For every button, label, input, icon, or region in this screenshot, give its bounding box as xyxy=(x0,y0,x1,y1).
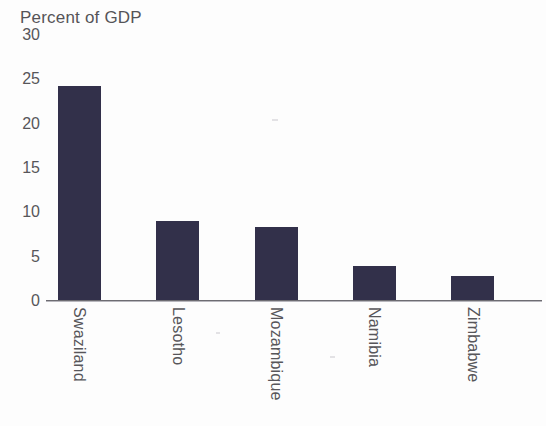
x-axis-tick-label: Zimbabwe xyxy=(464,307,482,382)
y-axis-tick-label: 15 xyxy=(22,159,40,177)
scan-artifact xyxy=(216,332,220,334)
x-axis-tick-label: Mozambique xyxy=(267,307,285,401)
x-axis-label-slot: Namibia xyxy=(353,301,396,426)
bar xyxy=(58,86,101,301)
x-axis-tick-label: Namibia xyxy=(365,307,383,367)
y-axis: 051015202530 xyxy=(0,35,44,301)
x-axis-tick-label: Lesotho xyxy=(169,307,187,365)
x-axis-label-slot: Mozambique xyxy=(255,301,298,426)
y-axis-tick-label: 30 xyxy=(22,26,40,44)
bar xyxy=(353,266,396,301)
chart-title: Percent of GDP xyxy=(20,8,142,28)
plot-area xyxy=(48,35,540,301)
y-axis-tick-label: 25 xyxy=(22,70,40,88)
x-axis-label-slot: Lesotho xyxy=(156,301,199,426)
x-axis-label-slot: Swaziland xyxy=(58,301,101,426)
bar-chart-figure: Percent of GDP 051015202530 SwazilandLes… xyxy=(0,0,546,426)
x-axis-label-slot: Zimbabwe xyxy=(451,301,494,426)
x-axis-tick-label: Swaziland xyxy=(70,307,88,382)
scan-artifact xyxy=(330,356,335,358)
bar xyxy=(255,227,298,301)
y-axis-tick-label: 5 xyxy=(31,248,40,266)
y-axis-tick-label: 10 xyxy=(22,203,40,221)
y-axis-tick-label: 0 xyxy=(31,292,40,310)
bar xyxy=(451,276,494,301)
x-axis-labels: SwazilandLesothoMozambiqueNamibiaZimbabw… xyxy=(48,301,540,426)
bar xyxy=(156,221,199,301)
scan-artifact xyxy=(272,119,278,121)
y-axis-tick-label: 20 xyxy=(22,115,40,133)
